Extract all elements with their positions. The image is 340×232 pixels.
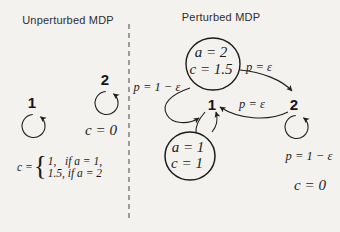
- right-state-2: 2: [290, 97, 298, 112]
- prob-stay-state2-label: p = 1 − ε: [286, 150, 333, 163]
- prob-2-to-1-label: p = ε: [239, 98, 265, 111]
- left-state2-selfloop-arrow: [95, 92, 118, 115]
- cost-formula-case2: 1.5, if a = 2: [48, 167, 102, 179]
- arrow-a1-to-state1: [212, 112, 217, 132]
- left-state1-selfloop-arrow: [22, 115, 45, 138]
- left-state2-cost-label: c = 0: [85, 123, 117, 138]
- action-a1-line2: c = 1: [171, 156, 203, 171]
- left-state-2: 2: [101, 72, 109, 87]
- cost-formula-case1: 1, if a = 1,: [48, 155, 102, 167]
- action-a2-line1: a = 2: [195, 45, 228, 60]
- right-state2-selfloop-arrow: [285, 116, 308, 139]
- right-state-1: 1: [208, 97, 216, 112]
- diagram-shapes: [0, 0, 340, 232]
- action-a2-line2: c = 1.5: [189, 62, 232, 77]
- right-state2-cost-label: c = 0: [294, 178, 326, 193]
- cost-formula-brace: {: [34, 150, 47, 183]
- cost-formula-cases: 1, if a = 1,1.5, if a = 2: [48, 155, 102, 179]
- arrow-state1-to-a1: [196, 112, 205, 133]
- action-a1-line1: a = 1: [172, 140, 205, 155]
- prob-1-to-2-label: p = ε: [246, 61, 272, 74]
- right-panel-title: Perturbed MDP: [182, 12, 260, 23]
- mdp-figure: Unperturbed MDP Perturbed MDP 1 2 c = 0 …: [0, 0, 340, 232]
- left-state-1: 1: [28, 95, 36, 110]
- left-cost-formula: c = { 1, if a = 1,1.5, if a = 2: [17, 151, 102, 182]
- prob-stay-state1-label: p = 1 − ε: [134, 81, 181, 94]
- left-panel-title: Unperturbed MDP: [22, 15, 114, 26]
- cost-formula-lhs: c =: [17, 161, 33, 173]
